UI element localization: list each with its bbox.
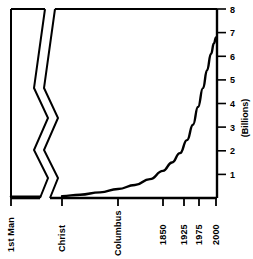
y-tick-label-4: 4 — [230, 99, 235, 109]
x-tick-label-columbus: Columbus — [113, 210, 123, 256]
y-tick-label-3: 3 — [230, 123, 235, 133]
x-tick-label-christ: Christ — [57, 225, 67, 252]
y-tick-label-5: 5 — [230, 75, 235, 85]
y-tick-label-6: 6 — [230, 52, 235, 62]
x-tick-label-1850: 1850 — [158, 224, 168, 245]
x-tick-label-1925: 1925 — [179, 224, 189, 245]
y-tick-label-1: 1 — [230, 170, 235, 180]
y-tick-label-8: 8 — [230, 5, 235, 15]
population-growth-chart: 8 7 6 5 4 3 2 1 (Billions) 1st Man Chris… — [0, 0, 253, 259]
x-tick-label-1st-man: 1st Man — [6, 217, 16, 252]
chart-canvas: 8 7 6 5 4 3 2 1 (Billions) 1st Man Chris… — [0, 0, 253, 259]
x-tick-label-1975: 1975 — [194, 224, 204, 245]
y-tick-label-7: 7 — [230, 28, 235, 38]
y-axis-title: (Billions) — [240, 99, 250, 138]
y-tick-label-2: 2 — [230, 146, 235, 156]
x-tick-label-2000: 2000 — [211, 224, 221, 245]
